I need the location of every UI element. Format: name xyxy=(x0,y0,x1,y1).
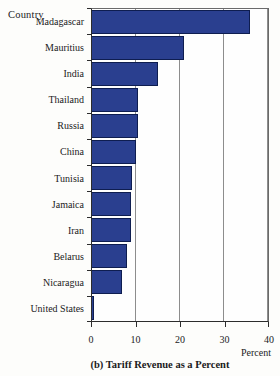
x-axis-tickmarks xyxy=(91,322,269,327)
x-ticklabel-40: 40 xyxy=(264,334,274,345)
bar-madagascar xyxy=(92,10,250,34)
bar-iran xyxy=(92,218,131,242)
bar-belarus xyxy=(92,244,127,268)
x-tickmark-40 xyxy=(268,322,269,327)
category-label-russia: Russia xyxy=(0,113,87,139)
category-label-mauritius: Mauritius xyxy=(0,34,87,60)
category-label-thailand: Thailand xyxy=(0,87,87,113)
chart-figure: Country MadagascarMauritiusIndiaThailand… xyxy=(0,0,280,376)
category-labels: MadagascarMauritiusIndiaThailandRussiaCh… xyxy=(0,8,87,322)
gridline-30 xyxy=(223,9,224,321)
x-tickmark-10 xyxy=(136,322,137,327)
x-ticklabel-30: 30 xyxy=(220,334,230,345)
category-label-tunisia: Tunisia xyxy=(0,165,87,191)
bar-nicaragua xyxy=(92,270,122,294)
category-label-belarus: Belarus xyxy=(0,244,87,270)
category-label-nicaragua: Nicaragua xyxy=(0,270,87,296)
bar-jamaica xyxy=(92,192,131,216)
x-ticklabel-20: 20 xyxy=(175,334,185,345)
x-tickmark-30 xyxy=(225,322,226,327)
x-ticklabel-10: 10 xyxy=(131,334,141,345)
x-axis-ticklabels: 010203040 xyxy=(91,334,269,346)
bar-russia xyxy=(92,114,138,138)
bar-india xyxy=(92,62,158,86)
category-label-united-states: United States xyxy=(0,296,87,322)
bar-mauritius xyxy=(92,36,184,60)
category-label-india: India xyxy=(0,60,87,86)
bar-united-states xyxy=(92,296,94,320)
category-label-china: China xyxy=(0,139,87,165)
chart-caption: (b) Tariff Revenue as a Percent xyxy=(58,359,262,370)
bar-thailand xyxy=(92,88,138,112)
gridline-40 xyxy=(267,9,268,321)
category-label-jamaica: Jamaica xyxy=(0,191,87,217)
x-axis-title: Percent xyxy=(241,347,271,358)
x-tickmark-0 xyxy=(91,322,92,327)
category-label-madagascar: Madagascar xyxy=(0,8,87,34)
x-ticklabel-0: 0 xyxy=(89,334,94,345)
x-tickmark-20 xyxy=(180,322,181,327)
bar-china xyxy=(92,140,136,164)
plot-area xyxy=(91,8,269,322)
category-label-iran: Iran xyxy=(0,217,87,243)
bar-tunisia xyxy=(92,166,132,190)
